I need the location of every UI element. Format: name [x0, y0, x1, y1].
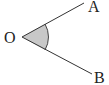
angle-sector: [22, 24, 48, 50]
ray-ob: [22, 37, 92, 74]
angle-diagram: O A B: [0, 0, 109, 85]
ray-oa: [22, 3, 84, 37]
label-b: B: [94, 69, 105, 85]
label-a: A: [88, 0, 100, 15]
label-o: O: [4, 29, 16, 46]
